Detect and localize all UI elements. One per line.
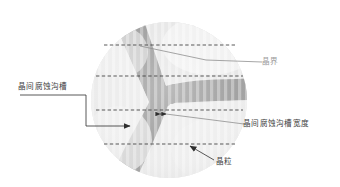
microstructure-diagram [0,0,340,187]
label-corrosion-groove: 晶间腐蚀沟槽 [18,83,68,91]
label-grain-boundary: 晶界 [262,58,279,66]
label-grain: 晶粒 [216,158,233,166]
label-groove-width: 晶间腐蚀沟槽宽度 [243,120,309,128]
figure-canvas: 晶间腐蚀沟槽 晶界 晶间腐蚀沟槽宽度 晶粒 [0,0,340,187]
